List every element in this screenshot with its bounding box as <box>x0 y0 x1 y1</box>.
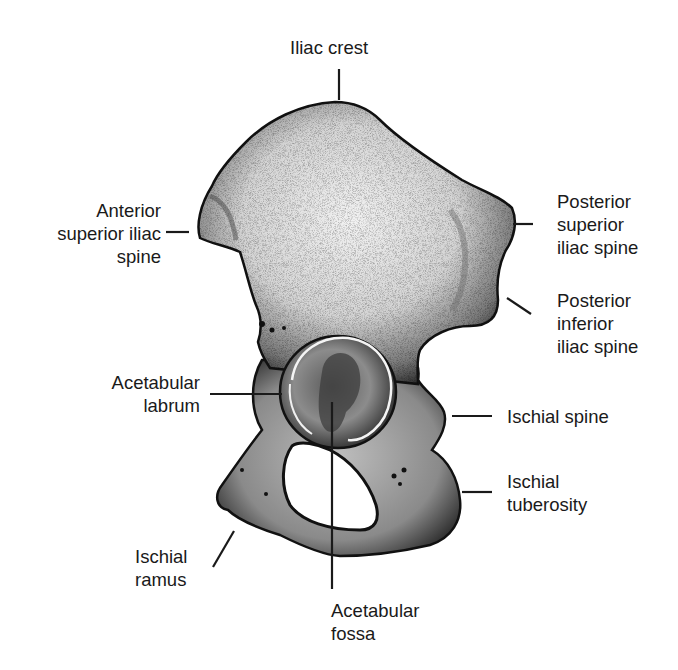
label-iliac-crest: Iliac crest <box>290 36 368 59</box>
label-line: iliac spine <box>557 335 638 358</box>
label-line: superior iliac <box>57 222 161 245</box>
label-line: iliac spine <box>557 236 638 259</box>
label-ischial-spine: Ischial spine <box>507 405 609 428</box>
label-line: tuberosity <box>507 493 587 516</box>
label-posterior-inferior-iliac-spine: Posterior inferior iliac spine <box>557 289 638 358</box>
label-line: Ischial spine <box>507 405 609 428</box>
leader-ischial-ramus <box>213 531 234 567</box>
label-ischial-tuberosity: Ischial tuberosity <box>507 470 587 516</box>
label-line: Iliac crest <box>290 36 368 59</box>
label-line: spine <box>57 245 161 268</box>
label-line: superior <box>557 213 638 236</box>
hip-bone-illustration <box>199 102 515 556</box>
label-posterior-superior-iliac-spine: Posterior superior iliac spine <box>557 190 638 259</box>
label-line: fossa <box>331 622 419 645</box>
label-line: Posterior <box>557 289 638 312</box>
label-line: inferior <box>557 312 638 335</box>
label-line: ramus <box>135 568 187 591</box>
label-acetabular-fossa: Acetabular fossa <box>331 599 419 645</box>
label-line: labrum <box>112 394 200 417</box>
label-line: Ischial <box>135 545 187 568</box>
label-acetabular-labrum: Acetabular labrum <box>112 371 200 417</box>
label-line: Anterior <box>57 199 161 222</box>
label-ischial-ramus: Ischial ramus <box>135 545 187 591</box>
leader-posterior-inferior-iliac-spine <box>507 298 531 314</box>
label-line: Acetabular <box>331 599 419 622</box>
label-line: Posterior <box>557 190 638 213</box>
label-anterior-superior-iliac-spine: Anterior superior iliac spine <box>57 199 161 268</box>
label-line: Acetabular <box>112 371 200 394</box>
label-line: Ischial <box>507 470 587 493</box>
